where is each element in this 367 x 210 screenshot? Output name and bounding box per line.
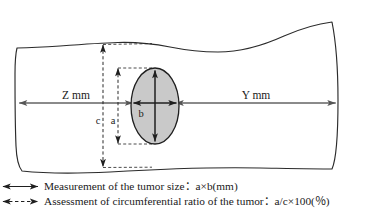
label-y-mm: Y mm: [242, 89, 271, 101]
legend-item-tumor-size: Measurement of the tumor size：a×b(mm): [3, 180, 238, 193]
figure-root: Z mm Y mm b c a Measurement of the tumor…: [0, 0, 367, 210]
label-z-mm: Z mm: [62, 89, 90, 101]
label-b: b: [138, 108, 143, 119]
legend-item-circumferential-ratio: Assessment of circumferential ratio of t…: [3, 195, 330, 208]
legend-label-circumferential-ratio: Assessment of circumferential ratio of t…: [44, 195, 330, 208]
legend: Measurement of the tumor size：a×b(mm) As…: [3, 180, 330, 208]
legend-label-tumor-size: Measurement of the tumor size：a×b(mm): [44, 180, 238, 193]
label-c: c: [96, 115, 101, 126]
label-a: a: [111, 115, 116, 126]
diagram-canvas: Z mm Y mm b c a Measurement of the tumor…: [0, 0, 367, 210]
tumor-shape: [131, 68, 179, 144]
